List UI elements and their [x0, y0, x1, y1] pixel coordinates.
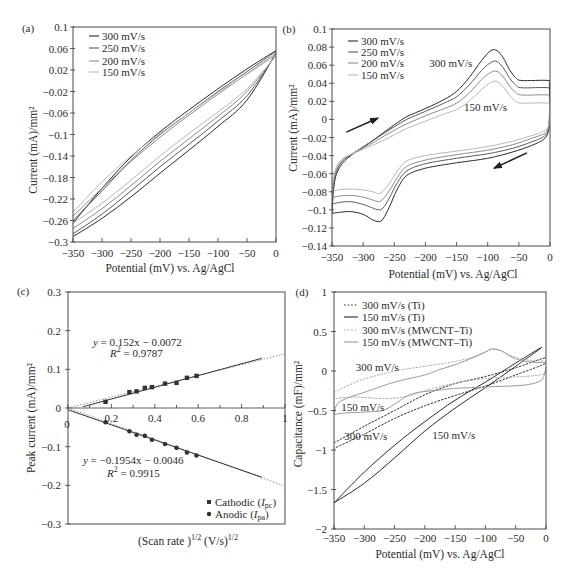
y-tick-label: −0.06: [302, 168, 328, 180]
fit-line-0: [83, 358, 262, 406]
x-tick-label: −350: [62, 247, 85, 259]
series-200-mv-s-curve: [332, 71, 550, 202]
cathodic-data-point: [103, 400, 107, 404]
x-axis-label-part: 1/2: [228, 533, 238, 542]
y-tick-label: −0.14: [43, 150, 69, 162]
anodic-data-point: [134, 432, 139, 437]
panel-label: (a): [22, 22, 35, 35]
annotation-label: 150 mV/s: [341, 401, 384, 413]
series-150-mv-s-curve: [332, 81, 550, 194]
panel-c: 00.20.40.60.810.30.20.10−0.1−0.2−0.3(Sca…: [17, 285, 288, 548]
x-axis-label-part: (V/s): [201, 535, 228, 548]
y-tick-label: −0.1: [41, 441, 61, 453]
anodic-data-point: [185, 450, 190, 455]
cathodic-data-point: [150, 385, 154, 389]
scan-direction-arrow-icon: [346, 118, 378, 132]
x-tick-label: −300: [352, 251, 375, 263]
anodic-data-point: [163, 442, 168, 447]
x-tick-label: −200: [413, 532, 436, 544]
legend: 300 mV/s250 mV/s200 mV/s150 mV/s: [348, 35, 404, 81]
y-tick-label: 0.1: [313, 23, 327, 35]
panel-d: −350−300−250−200−150−100−50010.50−0.5−1−…: [292, 286, 550, 561]
x-tick-label: −50: [510, 251, 528, 263]
x-tick-label: 0: [64, 418, 70, 430]
legend-label: 150 mV/s (Ti): [362, 311, 425, 324]
panel-label: (c): [17, 285, 30, 298]
cathodic-data-point: [127, 390, 131, 394]
y-tick-label: −0.2: [41, 479, 61, 491]
y-tick-label: −0.26: [43, 215, 69, 227]
figure-canvas: −350−300−250−200−150−100−5000.10.060.02−…: [0, 0, 571, 576]
x-tick-label: −250: [383, 251, 406, 263]
y-tick-label: 0.02: [49, 64, 68, 76]
x-tick-label: 0: [273, 247, 279, 259]
legend-label-part: ): [265, 508, 269, 521]
x-tick-label: −350: [321, 251, 344, 263]
x-tick-label: −150: [445, 251, 468, 263]
y-tick-label: −0.04: [302, 150, 328, 162]
y-axis-label: Capacitance (mF)/mm²: [292, 360, 305, 467]
legend-label: Anodic (Ipa): [215, 508, 269, 522]
panel-a: −350−300−250−200−150−100−5000.10.060.02−…: [22, 21, 280, 275]
x-tick-label: −200: [414, 251, 437, 263]
legend-square-marker-icon: [207, 500, 211, 504]
y-tick-label: −0.14: [302, 240, 328, 252]
y-tick-label: 0.06: [308, 59, 328, 71]
scan-direction-arrow-icon: [494, 153, 527, 168]
x-tick-label: 0.8: [235, 412, 249, 424]
panel-b: −350−300−250−200−150−100−5000.10.080.060…: [283, 23, 554, 281]
x-tick-label: 0.6: [191, 412, 205, 424]
y-tick-label: −0.1: [307, 204, 327, 216]
y-tick-label: −0.02: [43, 86, 68, 98]
x-axis-label: Potential (mV) vs. Ag/AgCl: [388, 268, 517, 281]
panel-label: (b): [283, 23, 296, 36]
y-tick-label: −0.08: [302, 186, 328, 198]
y-tick-label: −0.22: [43, 193, 68, 205]
legend: 300 mV/s250 mV/s200 mV/s150 mV/s: [89, 30, 145, 78]
y-tick-label: 0: [322, 113, 328, 125]
y-tick-label: −0.3: [41, 518, 61, 530]
x-tick-label: −200: [149, 247, 172, 259]
x-tick-label: 0: [543, 532, 549, 544]
y-tick-label: −0.18: [43, 172, 69, 184]
annotation-label: 300 mV/s: [429, 57, 472, 69]
y-tick-label: −0.12: [302, 222, 327, 234]
legend-label: 150 mV/s (MWCNT–Ti): [362, 336, 473, 349]
y-tick-label: 0.5: [313, 326, 327, 338]
y-tick-label: 0.1: [47, 363, 61, 375]
x-tick-label: −50: [238, 247, 256, 259]
legend-label: 250 mV/s: [102, 42, 145, 54]
series-250-mv-s-curve: [332, 61, 550, 210]
x-axis-label: (Scan rate )1/2 (V/s)1/2: [138, 533, 238, 549]
cathodic-data-point: [174, 381, 178, 385]
anodic-data-point: [127, 429, 132, 434]
y-tick-label: −0.1: [48, 129, 68, 141]
y-tick-label: −2: [315, 523, 327, 535]
annotation-label: y = −0.1954x − 0.0046: [82, 454, 184, 466]
y-tick-label: 0.3: [47, 286, 61, 298]
anodic-data-point: [143, 434, 148, 439]
annotation-label: 300 mV/s: [344, 430, 387, 442]
y-tick-label: 0: [322, 365, 328, 377]
y-axis-label: Current (mA)/mm²: [287, 84, 300, 172]
legend: 300 mV/s (Ti)150 mV/s (Ti)300 mV/s (MWCN…: [344, 299, 473, 349]
cathodic-data-point: [163, 381, 167, 385]
y-tick-label: −0.02: [302, 132, 327, 144]
x-tick-label: 1: [282, 412, 288, 424]
x-tick-label: −150: [444, 532, 467, 544]
cathodic-data-point: [134, 389, 138, 393]
legend: Cathodic (Ipc)Anodic (Ipa): [207, 496, 277, 522]
y-tick-label: −0.5: [307, 405, 327, 417]
y-tick-label: −1: [315, 444, 327, 456]
panel-label: (d): [296, 286, 309, 299]
legend-circle-marker-icon: [207, 512, 211, 516]
x-axis-label-part: 1/2: [191, 533, 201, 542]
figure: −350−300−250−200−150−100−5000.10.060.02−…: [0, 0, 571, 576]
legend-label-part: Anodic (: [215, 508, 254, 521]
anodic-data-point: [194, 453, 199, 458]
x-tick-label: −300: [353, 532, 376, 544]
annotation-label: 300 mV/s: [356, 361, 399, 373]
x-tick-label: −50: [507, 532, 525, 544]
x-tick-label: −150: [178, 247, 201, 259]
x-tick-label: −250: [120, 247, 143, 259]
